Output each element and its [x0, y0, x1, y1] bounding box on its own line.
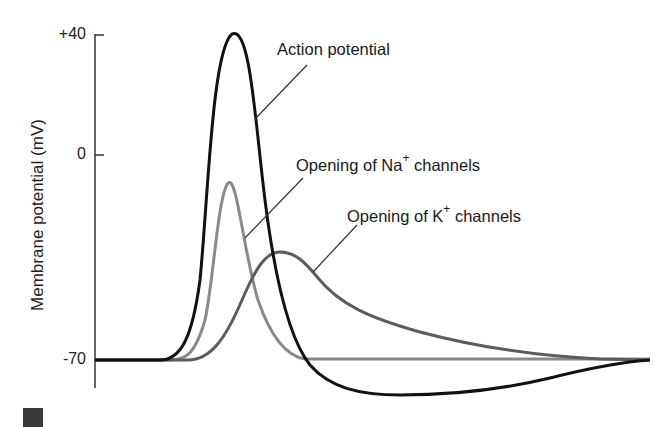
action-potential-chart: +40 0 -70 Membrane potential (mV) Action… — [0, 0, 670, 427]
label-action-potential: Action potential — [277, 40, 390, 59]
label-k-suffix: channels — [450, 207, 521, 225]
label-na-channels: Opening of Na+ channels — [296, 153, 480, 175]
k-channels-curve — [95, 252, 650, 360]
label-k-prefix: Opening of K — [347, 207, 443, 225]
label-k-channels: Opening of K+ channels — [347, 204, 521, 226]
tick-label-minus70: -70 — [26, 350, 86, 368]
label-k-sup: + — [443, 202, 450, 216]
label-na-sup: + — [402, 151, 409, 165]
leader-line-action-potential — [255, 65, 307, 119]
figure-marker-square — [23, 408, 43, 427]
leader-line-na-channels — [245, 178, 303, 238]
chart-plot-area — [0, 0, 670, 427]
leader-line-k-channels — [313, 225, 357, 272]
label-na-prefix: Opening of Na — [296, 156, 402, 174]
label-na-suffix: channels — [409, 156, 480, 174]
tick-label-plus40: +40 — [26, 25, 86, 43]
y-axis-title: Membrane potential (mV) — [28, 119, 48, 311]
